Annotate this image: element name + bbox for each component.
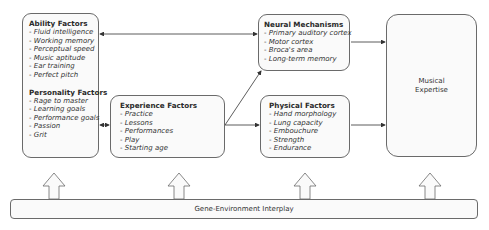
gene-environment-label: Gene-Environment Interplay: [11, 205, 477, 214]
experience-title: Experience Factors: [120, 101, 197, 110]
expertise-label-line1: Musical: [387, 77, 476, 86]
neural-item: Long-term memory: [264, 55, 352, 64]
up-arrow-icon: [419, 173, 441, 199]
physical-item: Endurance: [269, 144, 336, 153]
neural-item: Primary auditory cortex: [264, 29, 352, 38]
physical-item: Hand morphology: [269, 110, 336, 119]
neural-item: Broca's area: [264, 46, 352, 55]
experience-item: Starting age: [120, 144, 197, 153]
ability-item: Perceptual speed: [29, 45, 107, 54]
neural-title: Neural Mechanisms: [264, 20, 352, 29]
up-arrow-icon: [43, 173, 65, 199]
expertise-label-line2: Expertise: [387, 86, 476, 95]
experience-item: Performances: [120, 127, 197, 136]
personality-title: Personality Factors: [29, 88, 107, 97]
personality-item: Rage to master: [29, 97, 107, 106]
physical-box: Physical Factors Hand morphology Lung ca…: [260, 95, 350, 158]
physical-title: Physical Factors: [269, 101, 336, 110]
experience-item: Play: [120, 136, 197, 145]
gene-environment-bar: Gene-Environment Interplay: [10, 199, 478, 219]
experience-neural-arrow: [225, 71, 261, 125]
neural-box: Neural Mechanisms Primary auditory corte…: [258, 14, 350, 71]
ability-item: Music aptitude: [29, 54, 107, 63]
ability-title: Ability Factors: [29, 19, 107, 28]
musical-expertise-box: Musical Expertise: [386, 14, 477, 157]
ability-item: Perfect pitch: [29, 71, 107, 80]
up-arrow-icon: [168, 173, 190, 199]
personality-item: Grit: [29, 131, 107, 140]
personality-item: Learning goals: [29, 105, 107, 114]
ability-personality-box: Ability Factors Fluid intelligence Worki…: [22, 13, 99, 158]
up-arrow-icon: [294, 173, 316, 199]
ability-item: Working memory: [29, 37, 107, 46]
experience-item: Practice: [120, 110, 197, 119]
personality-item: Passion: [29, 122, 107, 131]
ability-item: Fluid intelligence: [29, 28, 107, 37]
experience-box: Experience Factors Practice Lessons Perf…: [110, 95, 225, 158]
physical-item: Lung capacity: [269, 119, 336, 128]
neural-item: Motor cortex: [264, 38, 352, 47]
experience-item: Lessons: [120, 119, 197, 128]
ability-item: Ear training: [29, 62, 107, 71]
physical-item: Strength: [269, 136, 336, 145]
physical-item: Embouchure: [269, 127, 336, 136]
personality-item: Performance goals: [29, 114, 107, 123]
